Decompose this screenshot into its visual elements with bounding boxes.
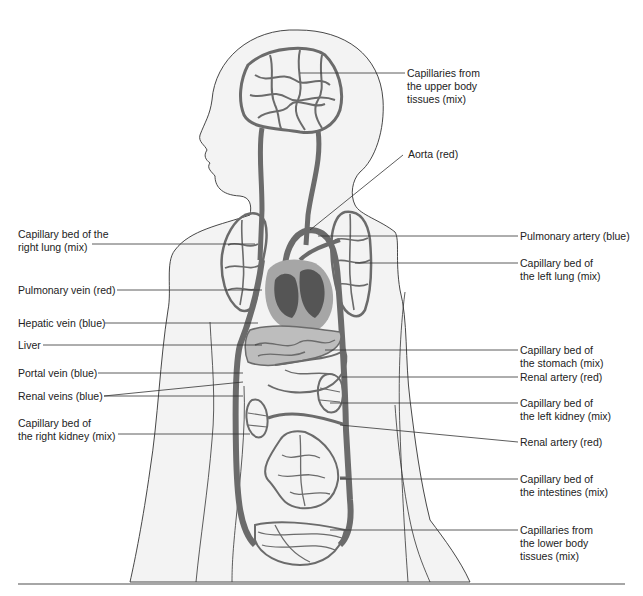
label-renal-artery-2: Renal artery (red) [520,436,602,449]
circulatory-diagram: Capillary bed of the right lung (mix) Pu… [0,0,643,596]
label-pulmonary-vein: Pulmonary vein (red) [18,284,115,297]
label-renal-artery-1: Renal artery (red) [520,371,602,384]
label-liver: Liver [18,339,41,352]
label-aorta: Aorta (red) [408,148,458,161]
label-renal-veins: Renal veins (blue) [18,390,103,403]
body-figure [0,0,643,596]
label-lower-body-capillaries: Capillaries from the lower body tissues … [520,524,593,563]
label-upper-body-capillaries: Capillaries from the upper body tissues … [407,67,480,106]
label-left-kidney-capillary-bed: Capillary bed of the left kidney (mix) [520,397,611,423]
label-left-lung-capillary-bed: Capillary bed of the left lung (mix) [520,257,601,283]
label-right-lung-capillary-bed: Capillary bed of the right lung (mix) [18,228,108,254]
label-stomach-capillary-bed: Capillary bed of the stomach (mix) [520,344,603,370]
label-hepatic-vein: Hepatic vein (blue) [18,317,106,330]
label-intestines-capillary-bed: Capillary bed of the intestines (mix) [520,473,608,499]
label-right-kidney-capillary-bed: Capillary bed of the right kidney (mix) [18,417,115,443]
label-pulmonary-artery: Pulmonary artery (blue) [520,230,630,243]
jugular-vein [260,128,262,260]
label-portal-vein: Portal vein (blue) [18,367,97,380]
